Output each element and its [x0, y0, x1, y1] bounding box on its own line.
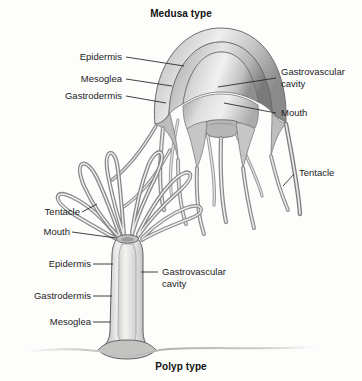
medusa-mouth	[204, 120, 239, 138]
substrate-line	[26, 347, 318, 356]
polyp-gastrovascular-cavity	[118, 244, 136, 345]
polyp-illustration	[26, 152, 318, 359]
label-polyp-gastrovascular-cavity: Gastrovascular cavity	[162, 266, 236, 289]
label-medusa-epidermis: Epidermis	[30, 51, 122, 63]
label-polyp-gastrodermis: Gastrodermis	[5, 290, 91, 302]
cnidarian-body-forms-figure: Medusa type Polyp type Epidermis Mesogle…	[0, 0, 362, 381]
label-medusa-gastrovascular-cavity: Gastrovascular cavity	[281, 66, 355, 89]
polyp-title: Polyp type	[0, 361, 362, 372]
label-medusa-mouth: Mouth	[281, 107, 307, 119]
label-medusa-gastrodermis: Gastrodermis	[22, 90, 122, 102]
label-polyp-tentacle: Tentacle	[10, 206, 80, 218]
label-medusa-mesoglea: Mesoglea	[30, 73, 122, 85]
medusa-title: Medusa type	[0, 8, 362, 19]
leader-medusa-tentacle	[283, 174, 294, 186]
label-polyp-mouth: Mouth	[10, 226, 70, 238]
label-polyp-mesoglea: Mesoglea	[10, 316, 91, 328]
label-polyp-epidermis: Epidermis	[10, 258, 91, 270]
label-medusa-tentacle: Tentacle	[299, 167, 334, 179]
